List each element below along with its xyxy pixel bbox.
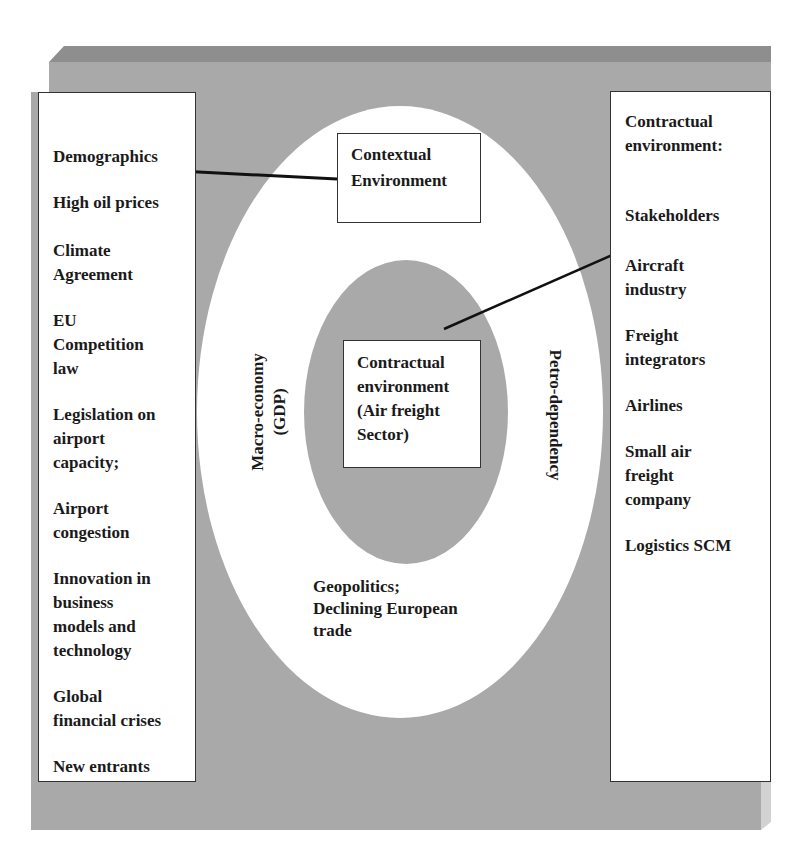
list-item: Demographics xyxy=(53,145,195,169)
list-item: High oil prices xyxy=(53,191,195,215)
list-item: Innovation in business models and techno… xyxy=(53,567,195,663)
list-item: Global financial crises xyxy=(53,685,195,733)
right-panel-contractual-environment: Contractual environment: Stakeholders Ai… xyxy=(610,91,771,782)
list-item: Small air freight company xyxy=(625,440,770,512)
slab-side-bevel xyxy=(761,781,771,830)
list-item: Freight integrators xyxy=(625,324,770,372)
petro-dependency-label: Petro-dependency xyxy=(544,330,566,500)
geopolitics-label: Geopolitics; Declining European trade xyxy=(313,576,458,642)
list-item: EU Competition law xyxy=(53,309,195,381)
list-item: Stakeholders xyxy=(625,204,770,228)
list-item: Legislation on airport capacity; xyxy=(53,403,195,475)
list-item: New entrants xyxy=(53,755,195,779)
contextual-environment-box: Contextual Environment xyxy=(337,133,481,223)
right-panel-heading: Contractual environment: xyxy=(625,110,770,158)
list-item: Airlines xyxy=(625,394,770,418)
list-item: Aircraft industry xyxy=(625,254,770,302)
macro-economy-label: Macro-economy (GDP) xyxy=(247,337,291,487)
list-item: Logistics SCM xyxy=(625,534,770,558)
contextual-environment-label: Contextual Environment xyxy=(351,142,480,194)
core-contractual-box: Contractual environment (Air freight Sec… xyxy=(343,340,481,468)
left-panel-contextual-factors: Demographics High oil prices Climate Agr… xyxy=(38,92,196,782)
list-item: Airport congestion xyxy=(53,497,195,545)
slab-top-bevel xyxy=(49,46,771,62)
core-contractual-label: Contractual environment (Air freight Sec… xyxy=(357,351,480,447)
list-item: Climate Agreement xyxy=(53,239,195,287)
